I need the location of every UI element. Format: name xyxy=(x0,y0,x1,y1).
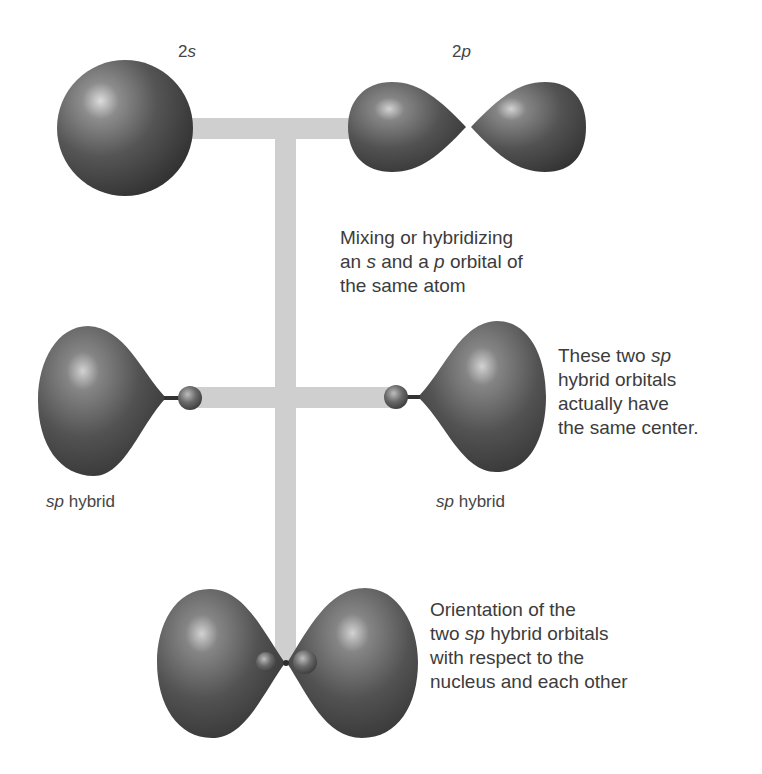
label-2p-letter: p xyxy=(461,42,470,61)
2s-orbital-sphere xyxy=(57,60,193,196)
orientation-line-2: two sp hybrid orbitals xyxy=(430,622,628,646)
annotation-mixing: Mixing or hybridizing an s and a p orbit… xyxy=(340,226,523,298)
2p-orbital-dumbbell xyxy=(348,82,586,172)
2p-right-lobe xyxy=(471,82,586,172)
mixing-line-1: Mixing or hybridizing xyxy=(340,226,523,250)
combined-right-small-lobe xyxy=(293,650,317,674)
label-2s-letter: s xyxy=(187,42,196,61)
sp-left-large-lobe xyxy=(38,326,166,476)
mixing-line-2: an s and a p orbital of xyxy=(340,250,523,274)
connector-middle-horizontal xyxy=(185,387,400,408)
2p-left-lobe xyxy=(348,82,466,172)
label-sp-hybrid-left: sp hybrid xyxy=(46,492,115,512)
mixing-line-3: the same atom xyxy=(340,274,523,298)
sp-hybridization-diagram: 2s 2p Mixing or hybridizing an s and a p… xyxy=(0,0,762,774)
sp-right-large-lobe xyxy=(418,321,546,472)
label-2s: 2s xyxy=(178,42,196,62)
sp-right-small-lobe xyxy=(384,385,408,409)
nucleus-point xyxy=(283,660,289,666)
orientation-line-4: nucleus and each other xyxy=(430,670,628,694)
same-center-line-3: actually have xyxy=(558,392,698,416)
sp-hybrid-left xyxy=(38,326,202,476)
label-2p: 2p xyxy=(452,42,471,62)
sp-hybrid-right xyxy=(384,321,546,472)
annotation-same-center: These two sp hybrid orbitals actually ha… xyxy=(558,344,698,440)
combined-left-small-lobe xyxy=(256,652,276,672)
same-center-line-4: the same center. xyxy=(558,416,698,440)
annotation-orientation: Orientation of the two sp hybrid orbital… xyxy=(430,598,628,694)
orientation-line-3: with respect to the xyxy=(430,646,628,670)
same-center-line-1: These two sp xyxy=(558,344,698,368)
orientation-line-1: Orientation of the xyxy=(430,598,628,622)
connector-bars xyxy=(185,118,400,663)
label-sp-hybrid-right: sp hybrid xyxy=(436,492,505,512)
sp-left-small-lobe xyxy=(178,386,202,410)
same-center-line-2: hybrid orbitals xyxy=(558,368,698,392)
